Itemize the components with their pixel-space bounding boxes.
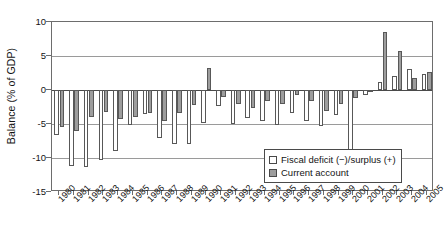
x-tick-mark: [426, 191, 427, 195]
bar-fiscal: [378, 82, 383, 90]
bar-group: [81, 22, 96, 190]
bar-fiscal: [216, 90, 221, 106]
bar-group: [214, 22, 229, 190]
y-tick-label--5: -5: [6, 118, 46, 129]
bar-fiscal: [201, 90, 206, 123]
bar-current-account: [207, 68, 212, 90]
x-tick-mark: [293, 191, 294, 195]
bar-current-account: [60, 90, 65, 127]
bar-fiscal: [128, 90, 133, 125]
x-tick-mark: [102, 191, 103, 195]
bar-group: [111, 22, 126, 190]
x-tick-mark: [117, 191, 118, 195]
bar-current-account: [295, 90, 300, 95]
x-tick-mark: [147, 191, 148, 195]
y-tick-mark--15: [46, 191, 51, 192]
bar-current-account: [236, 90, 241, 104]
bar-group: [184, 22, 199, 190]
x-tick-mark: [382, 191, 383, 195]
y-tick-label--15: -15: [6, 186, 46, 197]
bar-current-account: [398, 51, 403, 90]
x-tick-mark: [235, 191, 236, 195]
bar-current-account: [353, 90, 358, 98]
bar-fiscal: [245, 90, 250, 118]
bar-fiscal: [407, 69, 412, 90]
x-tick-mark: [323, 191, 324, 195]
chart-legend: Fiscal deficit (−)/surplus (+) Current a…: [264, 149, 402, 183]
bar-fiscal: [113, 90, 118, 151]
bar-current-account: [133, 90, 138, 117]
x-tick-mark: [279, 191, 280, 195]
bar-current-account: [368, 90, 373, 92]
x-tick-mark: [367, 191, 368, 195]
bar-current-account: [324, 90, 329, 111]
bar-current-account: [177, 90, 182, 113]
x-tick-mark: [176, 191, 177, 195]
x-tick-mark: [352, 191, 353, 195]
y-axis-title: Balance (% of GDP): [5, 48, 17, 144]
bar-current-account: [309, 90, 314, 101]
bar-group: [228, 22, 243, 190]
legend-label-fiscal: Fiscal deficit (−)/surplus (+): [281, 154, 396, 165]
x-tick-mark: [264, 191, 265, 195]
bar-fiscal: [422, 74, 427, 90]
x-tick-mark: [249, 191, 250, 195]
bar-fiscal: [304, 90, 309, 121]
bar-group: [243, 22, 258, 190]
bar-group: [199, 22, 214, 190]
bar-current-account: [280, 90, 285, 104]
bar-fiscal: [334, 90, 339, 115]
legend-swatch-fiscal-icon: [269, 156, 277, 164]
x-tick-mark: [191, 191, 192, 195]
bar-fiscal: [319, 90, 324, 126]
bar-group: [125, 22, 140, 190]
x-tick-mark: [73, 191, 74, 195]
bar-current-account: [162, 90, 167, 121]
bar-current-account: [427, 72, 432, 90]
bar-fiscal: [172, 90, 177, 144]
bar-current-account: [251, 90, 256, 108]
bar-group: [96, 22, 111, 190]
bar-current-account: [192, 90, 197, 105]
legend-label-current-account: Current account: [281, 167, 349, 178]
bar-current-account: [74, 90, 79, 131]
bar-fiscal: [275, 90, 280, 125]
bar-fiscal: [363, 90, 368, 95]
y-tick-label-5: 5: [6, 50, 46, 61]
legend-item-fiscal: Fiscal deficit (−)/surplus (+): [269, 153, 396, 166]
y-tick-label-10: 10: [6, 16, 46, 27]
bar-current-account: [118, 90, 123, 119]
bar-fiscal: [84, 90, 89, 167]
x-tick-mark: [132, 191, 133, 195]
legend-item-current-account: Current account: [269, 166, 396, 179]
bar-fiscal: [392, 76, 397, 90]
bar-fiscal: [54, 90, 59, 135]
bar-current-account: [104, 90, 109, 112]
x-tick-mark: [88, 191, 89, 195]
bar-group: [52, 22, 67, 190]
bar-fiscal: [290, 90, 295, 113]
bar-group: [67, 22, 82, 190]
bar-current-account: [148, 90, 153, 113]
bar-current-account: [265, 90, 270, 101]
bar-group: [170, 22, 185, 190]
bar-fiscal: [99, 90, 104, 160]
x-tick-mark: [396, 191, 397, 195]
bar-fiscal: [69, 90, 74, 166]
bar-fiscal: [143, 90, 148, 114]
y-tick-label--10: -10: [6, 152, 46, 163]
x-tick-mark: [338, 191, 339, 195]
bar-group: [419, 22, 434, 190]
x-tick-mark: [161, 191, 162, 195]
x-tick-mark: [411, 191, 412, 195]
bar-group: [140, 22, 155, 190]
x-tick-mark: [205, 191, 206, 195]
bar-current-account: [383, 32, 388, 90]
bar-current-account: [339, 90, 344, 104]
y-tick-label-0: 0: [6, 84, 46, 95]
y-axis-title-container: Balance (% of GDP): [0, 0, 22, 192]
x-tick-mark: [220, 191, 221, 195]
bar-group: [405, 22, 420, 190]
x-tick-mark: [308, 191, 309, 195]
